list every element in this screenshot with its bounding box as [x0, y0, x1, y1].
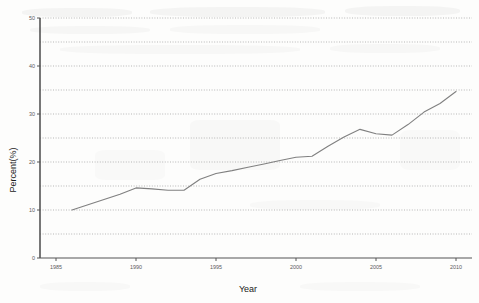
y-axis-title: Percent(%): [8, 147, 18, 192]
grid-lines: [40, 18, 472, 234]
y-axis-ticks: 01020304050: [29, 15, 40, 261]
y-tick-label: 40: [29, 63, 35, 69]
chart-figure: 01020304050 198519901995200020052010 Per…: [0, 0, 479, 303]
x-tick-label: 2000: [290, 264, 302, 270]
y-tick-label: 30: [29, 111, 35, 117]
x-tick-label: 2005: [370, 264, 382, 270]
data-series-line: [72, 91, 456, 210]
line-chart-svg: 01020304050 198519901995200020052010 Per…: [0, 0, 479, 303]
y-tick-label: 10: [29, 207, 35, 213]
x-tick-label: 1985: [50, 264, 62, 270]
x-tick-label: 1995: [210, 264, 222, 270]
x-tick-label: 2010: [450, 264, 462, 270]
y-tick-label: 50: [29, 15, 35, 21]
y-tick-label: 20: [29, 159, 35, 165]
y-tick-label: 0: [32, 255, 35, 261]
x-tick-label: 1990: [130, 264, 142, 270]
x-axis-ticks: 198519901995200020052010: [50, 258, 462, 270]
x-axis-title: Year: [239, 284, 257, 294]
